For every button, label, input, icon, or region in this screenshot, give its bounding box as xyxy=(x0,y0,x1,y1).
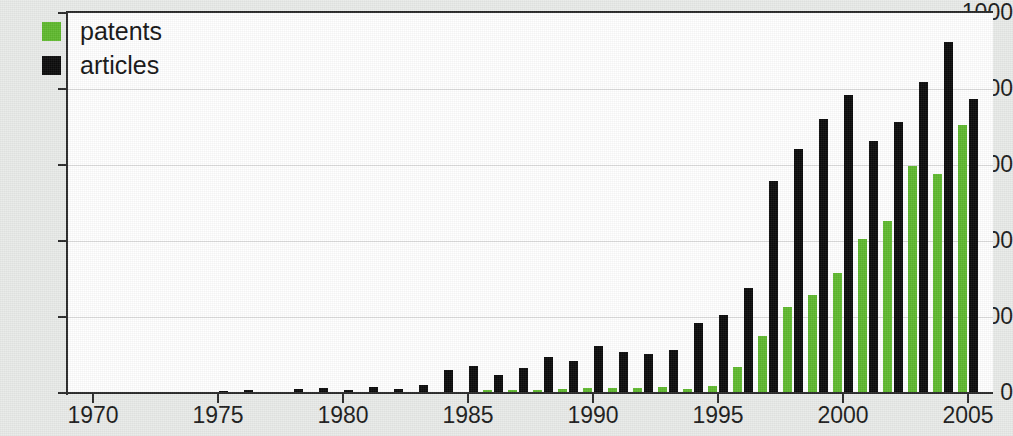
legend-swatch-patents xyxy=(42,22,61,41)
bar-articles-1988 xyxy=(544,357,553,393)
bar-articles-2002 xyxy=(894,122,903,393)
bar-articles-1996 xyxy=(744,288,753,393)
x-axis-tick-label: 1990 xyxy=(548,404,638,427)
legend-item-articles: articles xyxy=(42,48,162,82)
x-axis-tick-label: 2005 xyxy=(923,404,1013,427)
gridline xyxy=(68,317,993,318)
bar-patents-1996 xyxy=(733,367,742,393)
bar-patents-1997 xyxy=(758,336,767,393)
gridline xyxy=(68,241,993,242)
bar-articles-1991 xyxy=(619,352,628,393)
x-axis-tick-label: 1985 xyxy=(423,404,513,427)
x-axis-tick-label: 1980 xyxy=(298,404,388,427)
x-axis-tick-label: 1995 xyxy=(673,404,763,427)
bar-articles-1986 xyxy=(494,375,503,393)
bar-articles-1998 xyxy=(794,149,803,393)
bar-patents-2005 xyxy=(958,125,967,393)
x-axis-tick-label: 1975 xyxy=(173,404,263,427)
bar-articles-1987 xyxy=(519,368,528,393)
bar-articles-2003 xyxy=(919,82,928,393)
bar-articles-1984 xyxy=(444,370,453,393)
bar-articles-1989 xyxy=(569,361,578,393)
legend: patentsarticles xyxy=(42,14,162,82)
x-axis-tick-label: 1970 xyxy=(48,404,138,427)
bar-articles-1994 xyxy=(694,323,703,393)
bar-articles-2005 xyxy=(969,99,978,394)
bar-articles-1993 xyxy=(669,350,678,393)
bar-articles-1997 xyxy=(769,181,778,393)
bar-patents-2003 xyxy=(908,166,917,393)
x-axis-tick-label: 2000 xyxy=(798,404,888,427)
legend-label-patents: patents xyxy=(80,19,162,44)
bar-patents-1999 xyxy=(808,295,817,393)
plot-frame-top xyxy=(68,11,993,13)
gridline xyxy=(68,89,993,90)
bar-patents-2002 xyxy=(883,221,892,393)
bar-articles-2001 xyxy=(869,141,878,393)
chart-figure: 02004006008001000 1970197519801985199019… xyxy=(0,0,1013,436)
legend-item-patents: patents xyxy=(42,14,162,48)
bar-patents-2000 xyxy=(833,273,842,393)
bar-articles-1985 xyxy=(469,366,478,393)
bar-articles-1992 xyxy=(644,354,653,393)
bar-patents-2004 xyxy=(933,174,942,393)
bar-articles-1990 xyxy=(594,346,603,394)
bar-articles-1999 xyxy=(819,119,828,393)
plot-area xyxy=(68,13,993,393)
bar-patents-1998 xyxy=(783,307,792,393)
legend-label-articles: articles xyxy=(80,53,159,78)
bar-articles-1995 xyxy=(719,315,728,393)
bar-articles-2004 xyxy=(944,42,953,394)
x-axis-line xyxy=(68,392,993,394)
gridline xyxy=(68,165,993,166)
bar-articles-2000 xyxy=(844,95,853,393)
legend-swatch-articles xyxy=(42,56,61,75)
bar-patents-2001 xyxy=(858,239,867,393)
